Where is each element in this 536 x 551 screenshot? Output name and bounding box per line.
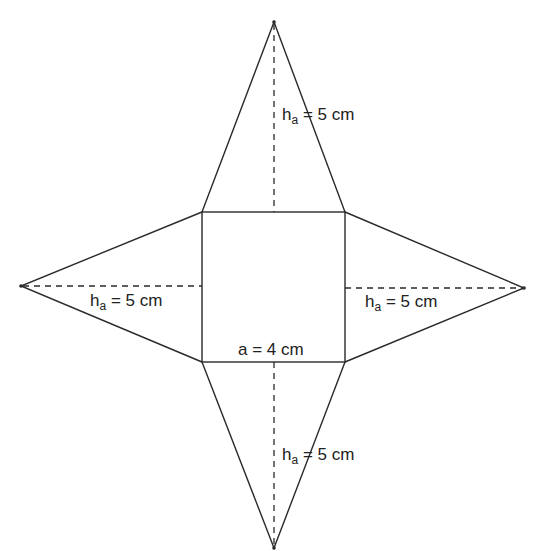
- right-height-label: ha = 5 cm: [365, 293, 437, 310]
- right-apex-point: [522, 286, 526, 290]
- pyramid-net-drawing: [0, 0, 536, 551]
- height-value: = 5 cm: [298, 445, 354, 464]
- bottom-height-label: ha = 5 cm: [282, 446, 354, 463]
- square-side-label: a = 4 cm: [238, 341, 304, 358]
- height-value: = 5 cm: [106, 291, 162, 310]
- bottom-apex-point: [272, 546, 276, 550]
- top-height-label: ha = 5 cm: [282, 106, 354, 123]
- pyramid-net-diagram: ha = 5 cm ha = 5 cm ha = 5 cm a = 4 cm h…: [0, 0, 536, 551]
- left-apex-point: [19, 284, 23, 288]
- top-apex-point: [272, 20, 276, 24]
- right-triangle: [345, 212, 524, 362]
- height-value: = 5 cm: [381, 292, 437, 311]
- left-height-label: ha = 5 cm: [90, 292, 162, 309]
- left-triangle: [21, 212, 202, 362]
- height-value: = 5 cm: [298, 105, 354, 124]
